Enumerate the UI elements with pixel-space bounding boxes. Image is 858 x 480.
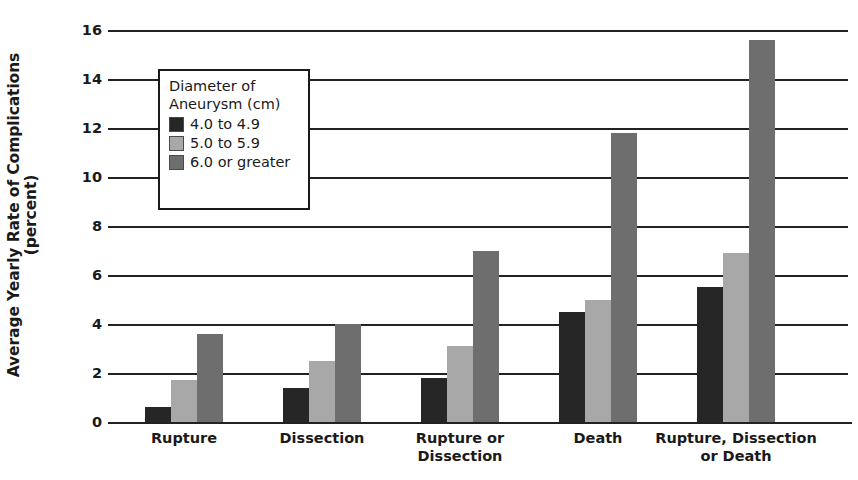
legend-item-label: 4.0 to 4.9	[190, 116, 260, 132]
y-axis-tick-label: 2	[62, 365, 102, 381]
y-axis-tick-label: 10	[62, 169, 102, 185]
bar	[611, 133, 637, 422]
y-axis-tick-label: 8	[62, 218, 102, 234]
legend-item[interactable]: 6.0 or greater	[169, 154, 308, 170]
y-axis-tick-labels: 1614121086420	[58, 30, 102, 422]
legend-title: Diameter of Aneurysm (cm)	[169, 78, 308, 113]
y-axis-tick-label: 12	[62, 120, 102, 136]
y-axis-tick-label: 4	[62, 316, 102, 332]
legend: Diameter of Aneurysm (cm) 4.0 to 4.95.0 …	[158, 69, 310, 210]
y-axis-tick-label: 16	[62, 22, 102, 38]
x-axis-line	[108, 422, 852, 424]
bar-group	[697, 30, 775, 422]
legend-entries: 4.0 to 4.95.0 to 5.96.0 or greater	[169, 116, 308, 170]
legend-item[interactable]: 4.0 to 4.9	[169, 116, 308, 132]
legend-swatch-icon	[169, 136, 184, 151]
x-axis-category-labels: RuptureDissectionRupture orDissectionDea…	[108, 430, 848, 480]
legend-swatch-icon	[169, 117, 184, 132]
bar	[145, 407, 171, 422]
legend-item-label: 6.0 or greater	[190, 154, 290, 170]
bar-group	[421, 30, 499, 422]
bar	[723, 253, 749, 422]
x-axis-category-label-line: Dissection	[370, 448, 550, 466]
bar-group	[559, 30, 637, 422]
x-axis-category-label: Rupture, Dissectionor Death	[646, 430, 826, 465]
y-axis-tick-label: 0	[62, 414, 102, 430]
bar	[171, 380, 197, 422]
bar	[749, 40, 775, 422]
y-axis-title-line-1: Average Yearly Rate of Complications	[6, 53, 23, 377]
bar	[559, 312, 585, 422]
bar	[283, 388, 309, 422]
y-axis-tick-label: 6	[62, 267, 102, 283]
y-axis-title: Average Yearly Rate of Complications (pe…	[0, 0, 46, 430]
bar	[473, 251, 499, 423]
bar	[197, 334, 223, 422]
bar-chart: Average Yearly Rate of Complications (pe…	[0, 0, 858, 480]
bar	[447, 346, 473, 422]
legend-title-line-2: Aneurysm (cm)	[169, 96, 308, 114]
legend-title-line-1: Diameter of	[169, 78, 308, 96]
y-axis-title-line-2: (percent)	[23, 175, 40, 256]
x-axis-category-label-line: or Death	[646, 448, 826, 466]
bar	[309, 361, 335, 422]
bar	[335, 324, 361, 422]
legend-item-label: 5.0 to 5.9	[190, 135, 260, 151]
y-axis-tick-label: 14	[62, 71, 102, 87]
bar	[421, 378, 447, 422]
bar	[697, 287, 723, 422]
x-axis-category-label-line: Rupture, Dissection	[646, 430, 826, 448]
legend-item[interactable]: 5.0 to 5.9	[169, 135, 308, 151]
legend-swatch-icon	[169, 155, 184, 170]
bar	[585, 300, 611, 423]
